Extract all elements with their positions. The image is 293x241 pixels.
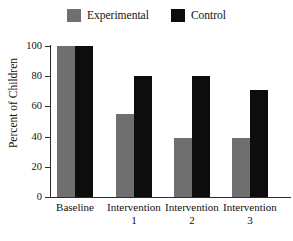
y-tick-label-20: 20 xyxy=(14,162,42,172)
y-tick-label-40: 40 xyxy=(14,132,42,142)
x-label-line1-3: Intervention xyxy=(223,201,277,213)
bar-chart: Experimental Control Percent of Children… xyxy=(0,0,293,241)
x-axis-line xyxy=(50,197,291,198)
plot-area xyxy=(50,46,291,197)
legend-label-experimental: Experimental xyxy=(87,9,149,21)
bar-experimental-3 xyxy=(232,138,250,197)
bar-experimental-0 xyxy=(57,46,75,197)
bar-group-2 xyxy=(174,46,210,197)
chart-legend: Experimental Control xyxy=(0,4,293,26)
x-label-line2-3: 3 xyxy=(205,214,293,227)
bar-control-2 xyxy=(192,76,210,197)
legend-swatch-control xyxy=(171,9,185,22)
bar-group-3 xyxy=(232,46,268,197)
y-tick-label-60: 60 xyxy=(14,101,42,111)
legend-swatch-experimental xyxy=(67,9,81,22)
y-tick-label-100: 100 xyxy=(14,41,42,51)
legend-item-experimental: Experimental xyxy=(67,9,149,22)
legend-label-control: Control xyxy=(191,9,226,21)
legend-item-control: Control xyxy=(171,9,226,22)
y-tick-label-80: 80 xyxy=(14,71,42,81)
bar-group-0 xyxy=(57,46,93,197)
y-tick-0 xyxy=(45,197,50,198)
bar-group-1 xyxy=(116,46,152,197)
bar-control-3 xyxy=(250,90,268,197)
bar-control-1 xyxy=(134,76,152,197)
bar-experimental-1 xyxy=(116,114,134,197)
x-label-3: Intervention3 xyxy=(205,201,293,227)
bar-experimental-2 xyxy=(174,138,192,197)
bar-control-0 xyxy=(75,46,93,197)
